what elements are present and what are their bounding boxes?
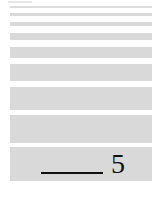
gray-band-3: [10, 13, 152, 16]
gray-band-6: [10, 47, 152, 58]
gray-band-7: [10, 64, 152, 81]
gray-band-4: [10, 22, 152, 26]
gray-band-9: [10, 115, 152, 143]
fill-in-blank-line[interactable]: [41, 172, 103, 174]
gray-band-2: [10, 6, 152, 8]
item-number: 5: [111, 150, 125, 178]
gray-band-8: [10, 87, 152, 110]
gray-band-5: [10, 33, 152, 40]
gray-band-1: [8, 1, 32, 3]
gray-band-10: [10, 147, 152, 181]
